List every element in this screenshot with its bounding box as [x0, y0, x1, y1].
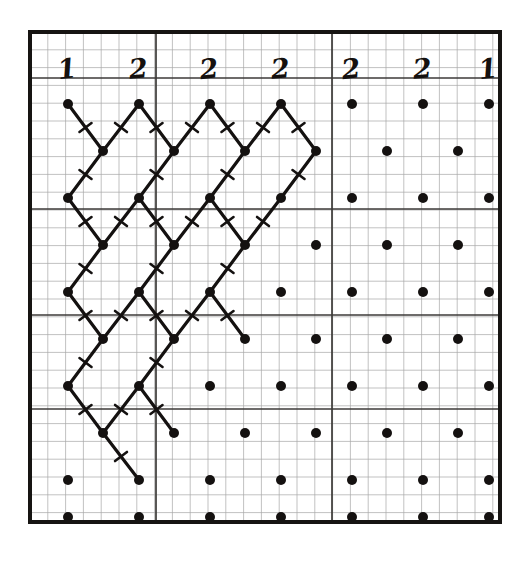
lattice-site-dot — [134, 475, 144, 485]
lattice-site-dot — [276, 193, 286, 203]
lattice-site-dot — [311, 334, 321, 344]
lattice-site-dot — [453, 240, 463, 250]
lattice-site-dot — [382, 146, 392, 156]
lattice-site-dot — [484, 475, 494, 485]
lattice-site-dot — [484, 381, 494, 391]
lattice-site-dot — [63, 381, 73, 391]
lattice-site-dot — [484, 193, 494, 203]
lattice-site-dot — [134, 381, 144, 391]
lattice-site-dot — [63, 287, 73, 297]
lattice-site-dot — [418, 99, 428, 109]
lattice-site-dot — [347, 193, 357, 203]
column-digit-label: 2 — [197, 52, 220, 85]
column-digit-label: 2 — [126, 52, 148, 85]
lattice-figure: 1222221 — [0, 0, 528, 569]
lattice-site-dot — [418, 287, 428, 297]
lattice-site-dot — [205, 475, 215, 485]
lattice-site-dot — [311, 240, 321, 250]
lattice-site-dot — [240, 428, 250, 438]
lattice-site-dot — [382, 428, 392, 438]
lattice-site-dot — [169, 240, 179, 250]
lattice-site-dot — [453, 428, 463, 438]
lattice-site-dot — [418, 381, 428, 391]
lattice-site-dot — [311, 146, 321, 156]
lattice-site-dot — [169, 334, 179, 344]
lattice-site-dot — [134, 99, 144, 109]
lattice-site-dot — [418, 193, 428, 203]
lattice-diagram-canvas: 1222221 — [0, 0, 528, 569]
lattice-site-dot — [418, 475, 428, 485]
lattice-site-dot — [276, 475, 286, 485]
lattice-site-dot — [205, 381, 215, 391]
lattice-site-dot — [98, 146, 108, 156]
column-digit-label: 1 — [477, 52, 499, 85]
lattice-site-dot — [484, 287, 494, 297]
lattice-site-dot — [98, 240, 108, 250]
lattice-site-dot — [205, 193, 215, 203]
lattice-site-dot — [205, 99, 215, 109]
lattice-site-dot — [382, 240, 392, 250]
column-digit-label: 1 — [56, 52, 78, 85]
lattice-site-dot — [347, 381, 357, 391]
lattice-site-dot — [382, 334, 392, 344]
lattice-site-dot — [240, 334, 250, 344]
lattice-site-dot — [276, 99, 286, 109]
lattice-site-dot — [276, 287, 286, 297]
lattice-site-dot — [484, 99, 494, 109]
lattice-site-dot — [453, 146, 463, 156]
lattice-site-dot — [63, 99, 73, 109]
column-digit-label: 2 — [268, 52, 290, 85]
lattice-site-dot — [347, 287, 357, 297]
lattice-site-dot — [63, 193, 73, 203]
lattice-site-dot — [98, 334, 108, 344]
lattice-site-dot — [98, 428, 108, 438]
lattice-site-dot — [169, 428, 179, 438]
column-digit-label: 2 — [339, 52, 362, 85]
lattice-site-dot — [63, 475, 73, 485]
lattice-site-dot — [134, 193, 144, 203]
lattice-site-dot — [240, 240, 250, 250]
lattice-site-dot — [240, 146, 250, 156]
lattice-site-dot — [311, 428, 321, 438]
lattice-site-dot — [134, 287, 144, 297]
column-digit-label: 2 — [410, 52, 432, 85]
lattice-site-dot — [276, 381, 286, 391]
lattice-site-dot — [453, 334, 463, 344]
lattice-site-dot — [205, 287, 215, 297]
lattice-site-dot — [169, 146, 179, 156]
lattice-site-dot — [347, 475, 357, 485]
lattice-site-dot — [347, 99, 357, 109]
